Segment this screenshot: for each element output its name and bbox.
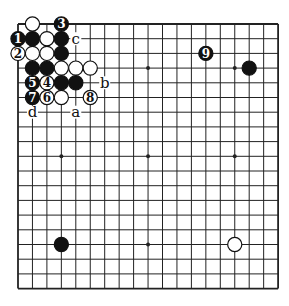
black-stone: [40, 61, 54, 75]
black-stone-1: 1: [11, 32, 25, 46]
black-stone-3: 3: [54, 17, 68, 31]
black-stone: [25, 32, 39, 46]
white-stone: [69, 61, 83, 75]
star-point-icon: [146, 243, 150, 247]
move-number: 1: [14, 32, 22, 46]
point-labels: cbda: [27, 30, 110, 122]
black-stone: [54, 46, 68, 60]
white-stone-icon: [54, 61, 68, 75]
star-point-icon: [233, 154, 237, 158]
black-stone-icon: [25, 61, 39, 75]
black-stone: [69, 76, 83, 90]
white-stone-6: 6: [40, 90, 54, 104]
black-stone-icon: [242, 61, 256, 75]
white-stone-icon: [40, 32, 54, 46]
black-stone-icon: [54, 76, 68, 90]
black-stone: [54, 237, 68, 251]
white-stone-icon: [83, 61, 97, 75]
white-stone-icon: [25, 17, 39, 31]
black-stone-5: 5: [25, 76, 39, 90]
move-number: 3: [57, 17, 65, 31]
star-point-icon: [146, 66, 150, 70]
point-label-d: d: [28, 103, 38, 121]
black-stone: [54, 76, 68, 90]
move-number: 9: [202, 47, 210, 61]
black-stone: [25, 61, 39, 75]
white-stone-2: 2: [11, 46, 25, 60]
star-point-icon: [146, 154, 150, 158]
white-stone-icon: [69, 61, 83, 75]
white-stone: [54, 61, 68, 75]
black-stone-icon: [69, 76, 83, 90]
black-stone-icon: [54, 46, 68, 60]
move-number: 4: [43, 76, 51, 90]
move-number: 7: [28, 91, 36, 105]
move-number: 2: [14, 47, 22, 61]
white-stone: [40, 46, 54, 60]
star-point-icon: [233, 66, 237, 70]
white-stone-icon: [40, 46, 54, 60]
black-stone-icon: [25, 32, 39, 46]
white-stone: [25, 17, 39, 31]
white-stone: [228, 237, 242, 251]
white-stone-icon: [25, 46, 39, 60]
white-stone-8: 8: [83, 90, 97, 104]
point-label-c: c: [72, 30, 80, 48]
white-stone-4: 4: [40, 76, 54, 90]
go-board: cbda 312547689: [0, 0, 289, 306]
black-stone-icon: [40, 61, 54, 75]
go-board-diagram: cbda 312547689: [0, 0, 289, 306]
black-stone: [54, 32, 68, 46]
move-number: 5: [28, 76, 36, 90]
black-stone-icon: [54, 32, 68, 46]
white-stone: [40, 32, 54, 46]
white-stone: [25, 46, 39, 60]
point-label-a: a: [71, 103, 80, 121]
white-stone-icon: [54, 90, 68, 104]
white-stone: [54, 90, 68, 104]
move-number: 8: [86, 91, 94, 105]
white-stone: [83, 61, 97, 75]
black-stone-7: 7: [25, 90, 39, 104]
black-stone-icon: [54, 237, 68, 251]
black-stone-9: 9: [199, 46, 213, 60]
white-stone-icon: [228, 237, 242, 251]
point-label-b: b: [100, 74, 110, 92]
star-point-icon: [59, 154, 63, 158]
black-stone: [242, 61, 256, 75]
move-number: 6: [43, 91, 51, 105]
